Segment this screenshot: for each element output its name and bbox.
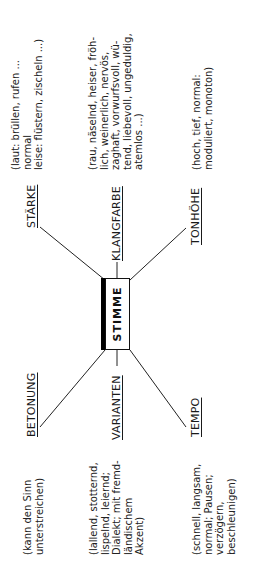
connector-staerke — [40, 227, 105, 280]
branch-label-klangfarbe: KLANGFARBE — [111, 186, 123, 261]
branch-note-staerke: (laut: brüllen, rufen ... normal leise: … — [10, 39, 45, 170]
branch-label-betonung: BETONUNG — [26, 372, 38, 437]
branch-note-tonhoehe: (hoch, tief, normal: moduliert, monoton) — [191, 67, 214, 170]
branch-label-staerke: STÄRKE — [26, 185, 38, 228]
center-node-stimme: STIMME — [105, 278, 130, 350]
branch-note-klangfarbe: (rau, näselnd, heiser, fröh- lich, weine… — [87, 33, 145, 170]
mind-map: STIMME STÄRKE (laut: brüllen, rufen ... … — [0, 0, 263, 582]
connector-betonung — [40, 350, 105, 427]
branch-note-varianten: (lallend, stotternd, lispelnd, leiernd; … — [88, 460, 146, 555]
branch-label-varianten: VARIANTEN — [111, 375, 123, 440]
center-label: STIMME — [111, 287, 124, 342]
connector-tempo — [130, 350, 186, 427]
branch-note-betonung: (kann den Sinn unterstreichen) — [22, 478, 45, 555]
branch-label-tonhoehe: TONHÖHE — [190, 188, 202, 245]
branch-label-tempo: TEMPO — [190, 398, 202, 437]
connector-tonhoehe — [130, 228, 186, 280]
branch-note-tempo: (schnell, langsam, normal; Pausen; verzö… — [191, 464, 237, 555]
